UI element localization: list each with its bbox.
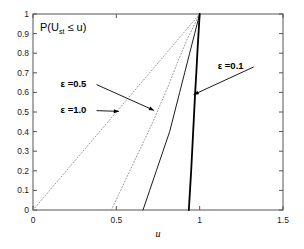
annotation-label: ε =1.0 bbox=[61, 104, 87, 115]
y-label-tail: ≤ u) bbox=[64, 21, 86, 33]
y-tick-label: 1 bbox=[24, 9, 29, 19]
x-tick-label: 0 bbox=[31, 215, 36, 225]
y-tick-label: 0.6 bbox=[17, 87, 29, 97]
y-tick-label: 0.7 bbox=[17, 68, 29, 78]
annotation-label: ε =0.5 bbox=[61, 78, 88, 89]
chart-background bbox=[0, 0, 304, 249]
x-axis-label: u bbox=[156, 228, 161, 239]
y-tick-label: 0.9 bbox=[17, 29, 29, 39]
figure-cdf-plot: 00.511.5 00.10.20.30.40.50.60.70.80.91 ε… bbox=[0, 0, 304, 249]
y-tick-label: 0.5 bbox=[17, 107, 29, 117]
annotation-label: ε =0.1 bbox=[218, 60, 245, 71]
y-tick-label: 0.4 bbox=[17, 127, 29, 137]
chart-canvas: 00.511.5 00.10.20.30.40.50.60.70.80.91 ε… bbox=[0, 0, 304, 249]
y-tick-label: 0.2 bbox=[17, 166, 29, 176]
x-tick-label: 0.5 bbox=[110, 215, 122, 225]
x-tick-label: 1.5 bbox=[277, 215, 289, 225]
y-tick-label: 0.3 bbox=[17, 146, 29, 156]
y-tick-label: 0.8 bbox=[17, 48, 29, 58]
y-label-main: P(U bbox=[40, 21, 59, 33]
y-tick-label: 0 bbox=[24, 205, 29, 215]
x-tick-label: 1 bbox=[197, 215, 202, 225]
y-tick-label: 0.1 bbox=[17, 185, 29, 195]
